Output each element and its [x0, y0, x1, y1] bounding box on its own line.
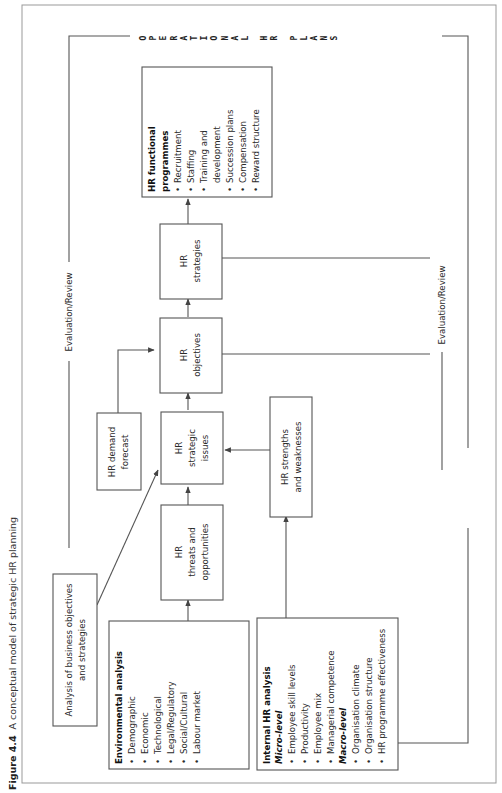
macro-item: HR programme effectiveness [377, 628, 387, 754]
svg-text:•: • [251, 187, 261, 192]
macro-item: Organisation climate [351, 665, 361, 754]
strengths-line2: and weaknesses [293, 421, 303, 492]
micro-item: Employee mix [313, 693, 323, 754]
svg-text:•: • [127, 759, 137, 764]
env-item: Labour market [192, 690, 202, 754]
strategies-line1: HR [179, 255, 189, 267]
operational-letter: T [190, 35, 199, 40]
operational-letter: L [300, 35, 309, 40]
threats-line2: threats and [187, 527, 197, 576]
objectives-line2: objectives [192, 333, 202, 377]
macro-level-label: Macro-level [338, 707, 348, 764]
micro-item: Employee skill levels [287, 664, 297, 754]
programme-item: development [212, 126, 222, 183]
operational-letter: L [241, 35, 250, 40]
strategies-box [160, 224, 222, 299]
svg-text:•: • [313, 759, 323, 764]
evaluation-review-bottom-label: Evaluation/Review [437, 266, 447, 345]
operational-letter: A [180, 35, 189, 40]
svg-text:•: • [192, 759, 202, 764]
forecast-to-objectives-arrow [118, 350, 154, 413]
macro-item: Organisation structure [364, 657, 374, 754]
svg-text:•: • [166, 759, 176, 764]
svg-text:•: • [238, 187, 248, 192]
strategies-line2: strategies [192, 239, 202, 282]
forecast-line2: forecast [120, 434, 130, 469]
operational-hr-plans-label: OPERATIONALHRPLANS [139, 35, 339, 40]
operational-letter: I [200, 35, 209, 40]
eval-line-right-lower [398, 528, 468, 743]
operational-letter: N [320, 35, 329, 40]
issues-line1: HR [174, 442, 184, 454]
internal-hr-analysis-title: Internal HR analysis [262, 666, 272, 764]
issues-line2: strategic [187, 429, 197, 467]
demand-forecast-box [97, 413, 141, 490]
figure-caption: Figure 4.4A conceptual model of strategi… [7, 517, 18, 790]
operational-letter: H [260, 35, 269, 40]
eval-line-top-upper [69, 36, 130, 262]
programmes-title2: programmes [160, 131, 170, 192]
threats-line1: HR [174, 546, 184, 558]
operational-letter: S [330, 35, 339, 40]
operational-letter: P [149, 35, 158, 40]
operational-letter: O [210, 35, 219, 40]
business-analysis-line1: Analysis of business objectives [64, 583, 74, 717]
svg-text:•: • [364, 759, 374, 764]
threats-line3: opportunities [200, 523, 210, 581]
programme-item: Recruitment [173, 130, 183, 183]
operational-letter: A [310, 35, 319, 40]
operational-letter: P [290, 35, 299, 40]
svg-text:•: • [153, 759, 163, 764]
svg-text:•: • [326, 759, 336, 764]
objectives-line1: HR [179, 349, 189, 361]
svg-text:•: • [199, 187, 209, 192]
figure-label: Figure 4.4 [7, 735, 18, 790]
micro-level-label: Micro-level [274, 709, 284, 764]
figure-title: A conceptual model of strategic HR plann… [7, 517, 18, 730]
operational-letter: R [270, 35, 279, 40]
operational-plans-line [442, 36, 468, 448]
svg-text:•: • [179, 759, 189, 764]
env-item: Social/Cultural [179, 692, 189, 754]
operational-letter: R [170, 35, 179, 40]
programme-item: Succession plans [225, 109, 235, 183]
svg-text:•: • [225, 187, 235, 192]
issues-line3: issues [200, 434, 210, 461]
svg-text:•: • [377, 759, 387, 764]
svg-text:•: • [287, 759, 297, 764]
operational-letter: N [221, 35, 230, 40]
micro-item: Managerial competence [326, 650, 336, 754]
svg-text:•: • [173, 187, 183, 192]
operational-letter: E [159, 35, 168, 40]
svg-text:•: • [186, 187, 196, 192]
programmes-title1: HR functional [147, 126, 157, 192]
environmental-analysis-title: Environmental analysis [114, 651, 124, 764]
strategic-hr-planning-diagram: Figure 4.4A conceptual model of strategi… [0, 0, 502, 793]
programme-item: Training and [199, 130, 209, 184]
programme-item: Reward structure [251, 109, 261, 183]
objectives-box [160, 318, 222, 393]
env-item: Economic [140, 712, 150, 754]
forecast-line1: HR demand [107, 427, 117, 477]
strengths-weaknesses-box [270, 397, 312, 517]
env-item: Legal/Regulatory [166, 681, 176, 754]
svg-text:Figure 4.4A conceptual model o: Figure 4.4A conceptual model of strategi… [7, 517, 18, 790]
strengths-line1: HR strengths [280, 429, 290, 485]
business-analysis-line2: and strategies [77, 619, 87, 681]
programme-item: Compensation [238, 121, 248, 183]
env-item: Demographic [127, 696, 137, 754]
env-item: Technological [153, 696, 163, 755]
operational-letter: O [139, 35, 148, 40]
micro-item: Productivity [300, 703, 310, 754]
svg-text:•: • [140, 759, 150, 764]
svg-text:•: • [300, 759, 310, 764]
programme-item: Staffing [186, 150, 196, 183]
business-analysis-box [53, 574, 97, 726]
evaluation-review-top-label: Evaluation/Review [64, 273, 74, 352]
svg-text:•: • [351, 759, 361, 764]
operational-letter: A [231, 35, 240, 40]
